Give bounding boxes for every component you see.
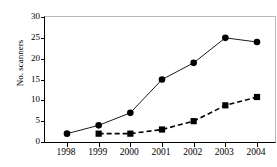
plot-svg — [45, 17, 275, 142]
y-axis-tick-mark — [41, 142, 45, 143]
y-axis-tick-mark — [41, 38, 45, 39]
y-axis-tick-label: 15 — [20, 75, 40, 84]
y-axis-tick-label: 10 — [20, 95, 40, 104]
y-axis-tick-mark — [41, 59, 45, 60]
y-axis-tick-mark — [41, 80, 45, 81]
data-point-square — [159, 126, 165, 132]
y-axis-tick-label: 20 — [20, 54, 40, 63]
plot-area — [44, 16, 276, 143]
y-axis-tick-label: 0 — [20, 137, 40, 146]
data-point-circle — [254, 39, 261, 46]
y-axis-tick-label: 25 — [20, 33, 40, 42]
data-point-square — [127, 131, 133, 137]
data-point-square — [254, 94, 260, 100]
data-point-square — [191, 118, 197, 124]
y-axis-tick-mark — [41, 100, 45, 101]
data-point-circle — [95, 122, 102, 129]
y-axis-tick-label: 5 — [20, 116, 40, 125]
chart-figure: No. scanners 051015202530 19981999200020… — [0, 0, 277, 167]
x-axis-tick-labels: 1998199920002001200220032004 — [44, 147, 276, 163]
x-axis-tick-label: 2004 — [236, 147, 276, 158]
data-point-circle — [64, 130, 71, 137]
data-point-circle — [222, 35, 229, 42]
y-axis-tick-label: 30 — [20, 12, 40, 21]
data-point-square — [96, 131, 102, 137]
data-point-circle — [190, 60, 197, 67]
y-axis-tick-mark — [41, 121, 45, 122]
data-point-circle — [159, 76, 166, 83]
data-point-circle — [127, 110, 134, 117]
y-axis-tick-mark — [41, 17, 45, 18]
data-point-square — [222, 102, 228, 108]
series-line-square — [99, 97, 257, 134]
y-axis-tick-labels: 051015202530 — [20, 10, 40, 155]
series-line-circle — [67, 38, 257, 134]
